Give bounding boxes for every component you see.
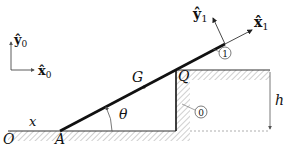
theta-arc [106, 107, 112, 131]
x1-axis-label: x̂1 [254, 14, 269, 32]
height-label: h [275, 92, 284, 108]
theta-label: θ [119, 106, 128, 122]
point-label-A: A [53, 131, 65, 147]
svg-text:1: 1 [222, 49, 228, 59]
point-label-Q: Q [178, 68, 190, 84]
position-label-x: x [29, 114, 37, 129]
svg-text:0: 0 [198, 108, 204, 118]
frame1-axes [213, 18, 252, 44]
height-dimension: h [270, 72, 284, 129]
point-label-G: G [132, 69, 143, 85]
center-of-mass-dot [142, 85, 145, 88]
y1-axis-label: ŷ1 [192, 6, 208, 24]
diagram-canvas: h x̂1 ŷ1 ŷ0 x̂0 θ O A G Q x 1 0 [0, 0, 288, 154]
x0-axis-label: x̂0 [38, 63, 52, 80]
y0-axis-label: ŷ0 [13, 32, 28, 49]
origin-label-O: O [3, 131, 15, 147]
